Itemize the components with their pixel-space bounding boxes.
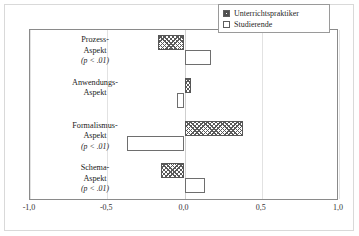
category-row: Anwendungs-Aspekt xyxy=(30,73,337,116)
bar-studierende-schema[interactable] xyxy=(185,178,205,193)
hatched-square-icon xyxy=(223,10,230,17)
category-label-line1: Formalismus- xyxy=(36,121,154,132)
figure-container: Prozess-Aspekt(p < .01)Anwendungs-Aspekt… xyxy=(0,0,359,236)
category-pvalue: (p < .01) xyxy=(36,56,154,67)
category-label-line1: Prozess- xyxy=(36,35,154,46)
category-label-line1: Anwendungs- xyxy=(36,78,154,89)
x-tick-label: -1,0 xyxy=(23,203,36,213)
category-label: Schema-Aspekt(p < .01) xyxy=(36,163,154,195)
category-label-line2: Aspekt xyxy=(36,174,154,185)
bar-studierende-anwendungs[interactable] xyxy=(177,93,185,108)
plot-area: Prozess-Aspekt(p < .01)Anwendungs-Aspekt… xyxy=(29,29,338,200)
category-label: Anwendungs-Aspekt xyxy=(36,78,154,99)
bar-studierende-prozess[interactable] xyxy=(185,50,211,65)
legend-item-label: Studierende xyxy=(234,20,272,29)
gridline xyxy=(339,30,340,199)
category-label-line2: Aspekt xyxy=(36,88,154,99)
category-pvalue: (p < .01) xyxy=(36,184,154,195)
category-label-line2: Aspekt xyxy=(36,46,154,57)
chart-legend: Unterrichtspraktiker Studierende xyxy=(218,4,330,33)
x-tick-label: 0,5 xyxy=(256,203,266,213)
legend-item-label: Unterrichtspraktiker xyxy=(234,9,299,18)
x-tick-label: 1,0 xyxy=(333,203,343,213)
x-tick-label: 0,0 xyxy=(179,203,189,213)
open-square-icon xyxy=(223,21,230,28)
category-label: Prozess-Aspekt(p < .01) xyxy=(36,35,154,67)
x-tick-label: -0,5 xyxy=(100,203,113,213)
category-row: Schema-Aspekt(p < .01) xyxy=(30,158,337,201)
bar-unterrichtspraktiker-schema[interactable] xyxy=(161,163,184,178)
bar-unterrichtspraktiker-anwendungs[interactable] xyxy=(185,78,191,93)
bar-unterrichtspraktiker-prozess[interactable] xyxy=(158,35,184,50)
legend-item-unterrichtspraktiker[interactable]: Unterrichtspraktiker xyxy=(223,8,325,18)
category-row: Formalismus-Aspekt(p < .01) xyxy=(30,116,337,159)
bar-studierende-formalismus[interactable] xyxy=(127,136,184,151)
x-axis: -1,0-0,50,00,51,0 xyxy=(29,203,338,219)
category-label-line1: Schema- xyxy=(36,163,154,174)
bar-unterrichtspraktiker-formalismus[interactable] xyxy=(185,121,244,136)
category-row: Prozess-Aspekt(p < .01) xyxy=(30,30,337,73)
legend-item-studierende[interactable]: Studierende xyxy=(223,19,325,29)
